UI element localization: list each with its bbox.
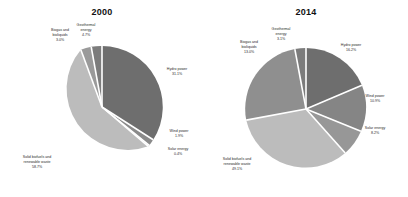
label-wind-2014: Wind power 10.9% bbox=[352, 94, 398, 104]
label-biofuels-2000: Solid biofuels and renewable waste 58.7% bbox=[6, 155, 68, 170]
chart-panel-2014: 2014 bbox=[204, 0, 408, 197]
label-biogas-2014: Biogas and bioliquids 13.0% bbox=[228, 40, 270, 55]
label-solar-2014: Solar energy 8.2% bbox=[352, 126, 398, 136]
label-hydro-2000: Hydro power 31.1% bbox=[155, 67, 199, 77]
label-wind-2000: Wind power 1.9% bbox=[157, 129, 201, 139]
pie-2014-svg bbox=[244, 47, 368, 171]
label-geothermal-2000: Geothermal energy 4.7% bbox=[66, 23, 106, 38]
pie-2000-svg bbox=[40, 45, 164, 169]
chart-panel-2000: 2000 bbox=[0, 0, 204, 197]
label-hydro-2014: Hydro power 16.2% bbox=[328, 43, 374, 53]
pie-2000 bbox=[40, 45, 164, 169]
label-solar-2000: Solar energy 0.4% bbox=[155, 147, 201, 157]
label-geothermal-2014: Geothermal energy 3.1% bbox=[260, 27, 302, 42]
pie-2014 bbox=[244, 47, 368, 171]
chart-title-2000: 2000 bbox=[0, 7, 204, 17]
chart-title-2014: 2014 bbox=[204, 7, 408, 17]
label-biofuels-2014: Solid biofuels and renewable waste 49.1% bbox=[206, 157, 268, 172]
pie-chart-figure: 2000 bbox=[0, 0, 408, 197]
